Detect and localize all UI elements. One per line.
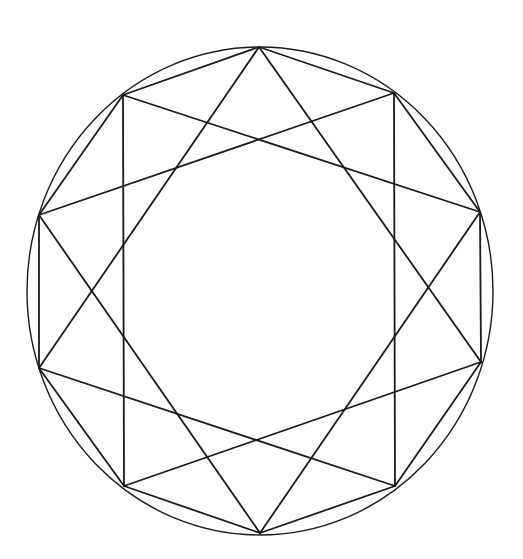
decagon-edge <box>124 486 260 533</box>
star-decagon-diagram <box>0 0 523 559</box>
decagon-edge <box>259 47 394 93</box>
circumscribed-circle <box>27 47 493 535</box>
decagon-edge <box>39 368 124 486</box>
star-line <box>124 362 481 486</box>
star-line <box>39 93 394 215</box>
star-line <box>260 212 480 533</box>
star-line <box>259 47 481 362</box>
decagon-edge <box>395 362 481 486</box>
decagon-edge <box>39 95 123 215</box>
star-line <box>123 95 480 212</box>
star-line <box>123 95 124 486</box>
decagon-edge <box>394 93 480 212</box>
star-line <box>394 93 395 486</box>
star-line <box>39 47 259 368</box>
decagon-edges <box>39 47 481 533</box>
star-line <box>39 215 260 533</box>
decagon-edge <box>480 212 481 362</box>
decagon-edge <box>123 47 259 95</box>
decagon-edge <box>260 486 395 533</box>
star-line <box>39 368 395 486</box>
